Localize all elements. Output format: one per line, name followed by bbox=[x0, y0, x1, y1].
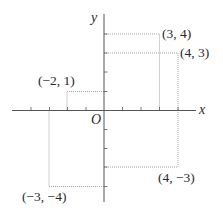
origin-label: O bbox=[91, 112, 101, 127]
guide-point-neg2-1 bbox=[67, 92, 104, 111]
point-label-4-3: (4, 3) bbox=[180, 45, 209, 60]
guide-point-4-neg3 bbox=[104, 111, 178, 168]
point-label-3-4: (3, 4) bbox=[162, 26, 191, 41]
coordinate-plane: y x O (3, 4) (4, 3) (−2, 1) (−3, −4) (4,… bbox=[0, 0, 223, 215]
guide-point-3-4 bbox=[104, 34, 160, 111]
point-label-neg2-1: (−2, 1) bbox=[38, 73, 75, 88]
point-label-neg3-neg4: (−3, −4) bbox=[22, 189, 66, 204]
point-label-4-neg3: (4, −3) bbox=[158, 170, 195, 185]
y-axis-label: y bbox=[89, 10, 98, 25]
guide-point-4-3 bbox=[104, 53, 178, 111]
x-axis-label: x bbox=[198, 102, 206, 117]
